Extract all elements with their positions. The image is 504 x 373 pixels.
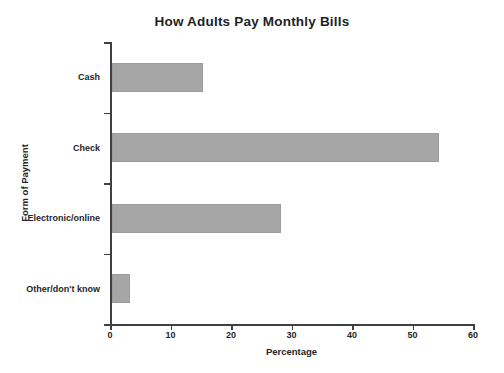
x-tick-label-20: 20 [216,330,246,340]
x-tick-label-50: 50 [398,330,428,340]
y-axis-tick [104,42,110,44]
x-tick-label-0: 0 [95,330,125,340]
y-axis-tick [104,183,110,185]
bar-cash [112,63,203,92]
bar-row-cash [112,63,475,92]
bar-chart-figure: How Adults Pay Monthly Bills Form of Pay… [0,0,504,373]
x-axis-title: Percentage [110,346,473,357]
x-tick-label-30: 30 [277,330,307,340]
bar-row-other-don-t-know [112,274,475,303]
y-axis-title: Form of Payment [19,144,30,222]
category-label-check: Check [10,143,100,153]
category-label-electronic-online: Electronic/online [10,213,100,223]
chart-title: How Adults Pay Monthly Bills [0,14,504,29]
x-tick-label-10: 10 [156,330,186,340]
category-label-cash: Cash [10,72,100,82]
plot-area [110,42,475,326]
x-tick-label-60: 60 [458,330,488,340]
bar-row-check [112,133,475,162]
x-tick-label-40: 40 [337,330,367,340]
category-label-other-don-t-know: Other/don't know [10,284,100,294]
y-axis-tick [104,254,110,256]
bar-electronic-online [112,204,281,233]
y-axis-tick [104,113,110,115]
bar-row-electronic-online [112,204,475,233]
bar-check [112,133,439,162]
bar-other-don-t-know [112,274,130,303]
